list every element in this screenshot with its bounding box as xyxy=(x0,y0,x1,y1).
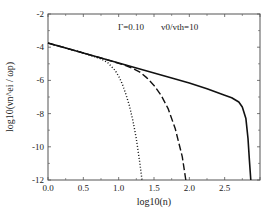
x-tick-label: 2.5 xyxy=(219,183,231,193)
x-tick-label: 1.5 xyxy=(148,183,160,193)
axes: 0.00.51.01.52.02.5-2-4-6-8-10-12 xyxy=(32,9,260,193)
chart: 0.00.51.01.52.02.5-2-4-6-8-10-12 Γ=0.10 … xyxy=(0,0,276,214)
y-axis-label: log10(νn^ei / ωp) xyxy=(4,62,16,132)
series-group xyxy=(48,43,251,180)
x-axis-label: log10(n) xyxy=(137,196,171,208)
y-tick-label: -6 xyxy=(37,75,45,85)
series-line-solid xyxy=(48,43,251,180)
y-tick-label: -8 xyxy=(37,109,45,119)
y-tick-label: -12 xyxy=(32,175,44,185)
y-tick-label: -10 xyxy=(32,142,44,152)
series-line-dashed xyxy=(48,43,186,180)
series-line-dotted xyxy=(48,43,142,180)
annotation-gamma: Γ=0.10 xyxy=(118,22,145,32)
x-tick-label: 2.0 xyxy=(184,183,196,193)
y-tick-label: -2 xyxy=(37,9,45,19)
x-tick-label: 0.0 xyxy=(42,183,54,193)
annotation-velocity: v0/vth=10 xyxy=(161,22,199,32)
y-tick-label: -4 xyxy=(37,42,45,52)
x-tick-label: 0.5 xyxy=(78,183,90,193)
x-tick-label: 1.0 xyxy=(113,183,125,193)
